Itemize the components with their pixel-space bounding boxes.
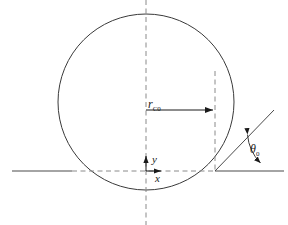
x-axis-label: x <box>154 172 160 184</box>
contact-angle-label-subscript: 0 <box>256 150 260 158</box>
tangent-line <box>215 110 274 171</box>
droplet-contact-angle-figure: rC0 θ0 y x <box>0 0 288 225</box>
diagram-canvas: rC0 θ0 y x <box>0 0 288 225</box>
radius-label: rC0 <box>148 97 161 113</box>
y-axis-label: y <box>151 153 157 165</box>
contact-angle-label: θ0 <box>250 142 260 158</box>
radius-label-subscript: C0 <box>153 105 162 113</box>
